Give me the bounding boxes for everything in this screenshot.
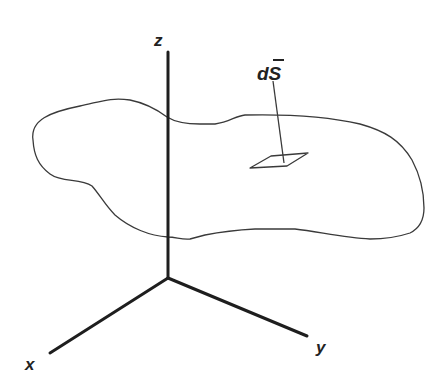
area-element-label: dS — [257, 60, 284, 84]
x-axis-label: x — [24, 355, 36, 374]
leader-line — [273, 81, 284, 163]
surface-outline — [33, 99, 424, 239]
svg-text:dS: dS — [257, 63, 282, 84]
y-axis-label: y — [315, 338, 327, 357]
y-axis — [168, 278, 307, 336]
area-element — [250, 153, 308, 168]
x-axis — [50, 278, 168, 353]
surface-integral-diagram: z x y dS — [0, 0, 448, 392]
z-axis-label: z — [153, 31, 163, 50]
